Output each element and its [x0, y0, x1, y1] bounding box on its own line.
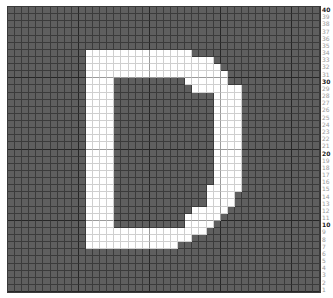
grid-cell[interactable] [150, 64, 157, 71]
grid-cell[interactable] [178, 235, 185, 242]
grid-cell[interactable] [72, 135, 79, 142]
grid-cell[interactable] [93, 114, 100, 121]
grid-cell[interactable] [178, 192, 185, 199]
grid-cell[interactable] [65, 100, 72, 107]
grid-cell[interactable] [79, 264, 86, 271]
grid-cell[interactable] [207, 157, 214, 164]
grid-cell[interactable] [36, 135, 43, 142]
grid-cell[interactable] [164, 36, 171, 43]
grid-cell[interactable] [313, 107, 320, 114]
grid-cell[interactable] [221, 264, 228, 271]
grid-cell[interactable] [185, 93, 192, 100]
grid-cell[interactable] [150, 85, 157, 92]
grid-cell[interactable] [121, 36, 128, 43]
grid-cell[interactable] [164, 93, 171, 100]
grid-cell[interactable] [36, 214, 43, 221]
grid-cell[interactable] [129, 150, 136, 157]
grid-cell[interactable] [285, 178, 292, 185]
grid-cell[interactable] [72, 164, 79, 171]
grid-cell[interactable] [263, 235, 270, 242]
grid-cell[interactable] [136, 121, 143, 128]
grid-cell[interactable] [221, 278, 228, 285]
grid-cell[interactable] [86, 164, 93, 171]
grid-cell[interactable] [263, 78, 270, 85]
grid-cell[interactable] [136, 93, 143, 100]
grid-cell[interactable] [22, 278, 29, 285]
grid-cell[interactable] [164, 150, 171, 157]
grid-cell[interactable] [164, 214, 171, 221]
grid-cell[interactable] [249, 114, 256, 121]
grid-cell[interactable] [171, 228, 178, 235]
grid-cell[interactable] [100, 85, 107, 92]
grid-cell[interactable] [270, 14, 277, 21]
grid-cell[interactable] [292, 164, 299, 171]
grid-cell[interactable] [256, 93, 263, 100]
grid-cell[interactable] [100, 100, 107, 107]
grid-cell[interactable] [207, 93, 214, 100]
grid-cell[interactable] [29, 93, 36, 100]
grid-cell[interactable] [121, 114, 128, 121]
grid-cell[interactable] [51, 128, 58, 135]
grid-cell[interactable] [22, 43, 29, 50]
grid-cell[interactable] [36, 249, 43, 256]
grid-cell[interactable] [15, 14, 22, 21]
grid-cell[interactable] [114, 135, 121, 142]
grid-cell[interactable] [242, 214, 249, 221]
grid-cell[interactable] [192, 57, 199, 64]
grid-cell[interactable] [93, 107, 100, 114]
grid-cell[interactable] [256, 43, 263, 50]
grid-cell[interactable] [235, 50, 242, 57]
grid-cell[interactable] [107, 128, 114, 135]
grid-cell[interactable] [93, 271, 100, 278]
grid-cell[interactable] [242, 135, 249, 142]
grid-cell[interactable] [36, 21, 43, 28]
grid-cell[interactable] [242, 57, 249, 64]
grid-cell[interactable] [65, 164, 72, 171]
grid-cell[interactable] [15, 71, 22, 78]
grid-cell[interactable] [277, 256, 284, 263]
grid-cell[interactable] [292, 214, 299, 221]
grid-cell[interactable] [185, 71, 192, 78]
grid-cell[interactable] [143, 142, 150, 149]
grid-cell[interactable] [100, 36, 107, 43]
grid-cell[interactable] [242, 207, 249, 214]
grid-cell[interactable] [171, 178, 178, 185]
grid-cell[interactable] [277, 164, 284, 171]
grid-cell[interactable] [207, 64, 214, 71]
grid-cell[interactable] [100, 78, 107, 85]
grid-cell[interactable] [228, 14, 235, 21]
grid-cell[interactable] [43, 221, 50, 228]
grid-cell[interactable] [249, 14, 256, 21]
grid-cell[interactable] [136, 249, 143, 256]
grid-cell[interactable] [136, 221, 143, 228]
grid-cell[interactable] [306, 21, 313, 28]
grid-cell[interactable] [136, 278, 143, 285]
grid-cell[interactable] [256, 235, 263, 242]
grid-cell[interactable] [143, 192, 150, 199]
grid-cell[interactable] [129, 242, 136, 249]
grid-cell[interactable] [171, 28, 178, 35]
grid-cell[interactable] [129, 85, 136, 92]
grid-cell[interactable] [121, 178, 128, 185]
grid-cell[interactable] [86, 178, 93, 185]
grid-cell[interactable] [43, 93, 50, 100]
grid-cell[interactable] [29, 43, 36, 50]
grid-cell[interactable] [51, 192, 58, 199]
grid-cell[interactable] [86, 199, 93, 206]
grid-cell[interactable] [86, 242, 93, 249]
grid-cell[interactable] [72, 57, 79, 64]
grid-cell[interactable] [263, 121, 270, 128]
grid-cell[interactable] [29, 142, 36, 149]
grid-cell[interactable] [185, 14, 192, 21]
grid-cell[interactable] [235, 256, 242, 263]
grid-cell[interactable] [157, 85, 164, 92]
grid-cell[interactable] [214, 100, 221, 107]
grid-cell[interactable] [256, 14, 263, 21]
grid-cell[interactable] [207, 256, 214, 263]
grid-cell[interactable] [207, 43, 214, 50]
grid-cell[interactable] [164, 57, 171, 64]
grid-cell[interactable] [263, 93, 270, 100]
grid-cell[interactable] [22, 107, 29, 114]
grid-cell[interactable] [51, 214, 58, 221]
grid-cell[interactable] [277, 271, 284, 278]
